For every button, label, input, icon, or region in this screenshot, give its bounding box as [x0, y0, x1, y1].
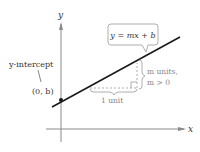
- y-intercept-label: y-intercept: [8, 60, 54, 69]
- x-axis-label: x: [188, 124, 193, 134]
- equation-callout: y = mx + b: [108, 24, 158, 52]
- y-axis-arrow-icon: [59, 22, 63, 30]
- run-brace: [90, 89, 137, 95]
- y-axis-label: y: [57, 10, 64, 20]
- intercept-pointer: [38, 70, 41, 82]
- equation-label: y = mx + b: [109, 31, 155, 40]
- rise-label-line1: m units,: [147, 67, 178, 76]
- intercept-point-label: (0, b): [32, 87, 54, 96]
- y-intercept-point: [59, 98, 63, 102]
- right-angle-mark: [131, 82, 137, 88]
- slope-intercept-diagram: y x 1 unit m units, m > 0 y = mx + b y-i…: [0, 0, 200, 152]
- run-label: 1 unit: [101, 96, 123, 105]
- slope-triangle: [90, 60, 145, 95]
- rise-brace: [139, 60, 145, 89]
- rise-label-line2: m > 0: [147, 78, 170, 87]
- x-axis-arrow-icon: [178, 127, 186, 131]
